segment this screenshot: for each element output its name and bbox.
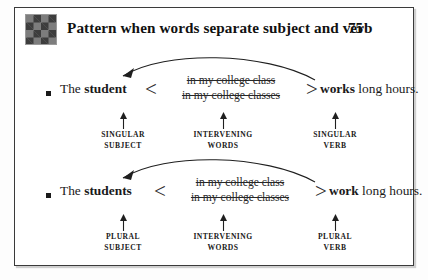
up-arrow-icon — [331, 214, 340, 231]
up-arrow-icon — [331, 112, 340, 129]
caption-singular-verb: SINGULAR VERB — [280, 112, 390, 151]
caption-line-1: INTERVENING — [168, 130, 278, 140]
caption-line-1: SINGULAR — [68, 130, 178, 140]
intervening-word-line: in my college class — [156, 74, 306, 89]
sentence-plural: The students < in my college class in my… — [15, 182, 415, 212]
caption-line-1: INTERVENING — [168, 232, 278, 242]
predicate-phrase: work long hours. — [329, 183, 422, 199]
subject-article: The — [60, 81, 84, 96]
intervening-words-plural: in my college class in my college classe… — [165, 176, 315, 205]
page-number: 75 — [348, 19, 363, 37]
example-block-singular: The student < in my college class in my … — [15, 54, 415, 154]
brace-close-icon: > — [306, 77, 318, 102]
subject-noun: students — [84, 183, 132, 198]
up-arrow-icon — [119, 214, 128, 231]
caption-line-1: PLURAL — [68, 232, 178, 242]
caption-line-2: WORDS — [168, 243, 278, 253]
caption-line-2: SUBJECT — [68, 141, 178, 151]
up-arrow-icon — [219, 112, 228, 129]
page-header: Pattern when words separate subject and … — [15, 8, 415, 52]
caption-intervening-words: INTERVENING WORDS — [168, 112, 278, 151]
subject-noun: student — [84, 81, 126, 96]
page-title: Pattern when words separate subject and … — [67, 19, 373, 37]
predicate-phrase: works long hours. — [320, 81, 419, 97]
intervening-words-singular: in my college class in my college classe… — [156, 74, 306, 103]
caption-line-1: PLURAL — [280, 232, 390, 242]
caption-line-2: VERB — [280, 141, 390, 151]
intervening-word-line: in my college classes — [156, 89, 306, 104]
caption-line-1: SINGULAR — [280, 130, 390, 140]
caption-plural-verb: PLURAL VERB — [280, 214, 390, 253]
sentence-singular: The student < in my college class in my … — [15, 80, 415, 110]
predicate-rest: long hours. — [359, 183, 423, 198]
example-block-plural: The students < in my college class in my… — [15, 156, 415, 256]
subject-phrase: The students — [60, 183, 132, 199]
caption-line-2: WORDS — [168, 141, 278, 151]
square-bullet-icon — [46, 193, 51, 198]
predicate-verb: work — [329, 183, 359, 198]
subject-article: The — [60, 183, 84, 198]
argyle-diamond-pattern-icon — [25, 14, 57, 45]
brace-close-icon: > — [315, 179, 327, 204]
caption-singular-subject: SINGULAR SUBJECT — [68, 112, 178, 151]
intervening-word-line: in my college classes — [165, 191, 315, 206]
intervening-word-line: in my college class — [165, 176, 315, 191]
caption-plural-subject: PLURAL SUBJECT — [68, 214, 178, 253]
textbook-page: Pattern when words separate subject and … — [0, 0, 428, 280]
up-arrow-icon — [119, 112, 128, 129]
page-frame: Pattern when words separate subject and … — [14, 7, 414, 266]
up-arrow-icon — [219, 214, 228, 231]
caption-line-2: VERB — [280, 243, 390, 253]
subject-phrase: The student — [60, 81, 127, 97]
caption-line-2: SUBJECT — [68, 243, 178, 253]
square-bullet-icon — [46, 91, 51, 96]
predicate-rest: long hours. — [355, 81, 419, 96]
caption-intervening-words: INTERVENING WORDS — [168, 214, 278, 253]
predicate-verb: works — [320, 81, 355, 96]
